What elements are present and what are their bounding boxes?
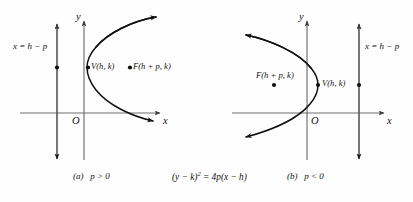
panel-b-graph (232, 21, 384, 160)
panel-b-origin-label: O (311, 116, 319, 127)
panel-b-parabola-curve-upper-arrow (246, 35, 311, 68)
panel-a-focus-point (128, 65, 132, 69)
panel-a-x-axis-label: x (163, 116, 168, 127)
panel-b-directrix-label: x = h − p (365, 42, 399, 51)
panel-b-vertex-point (316, 83, 320, 87)
panel-b-focus-point (272, 83, 276, 87)
panel-a-origin-label: O (72, 116, 80, 127)
panel-a-parabola-curve-upper-arrow (96, 17, 156, 47)
panel-a-graph (20, 17, 160, 160)
panel-b-x-axis-label: x (387, 116, 392, 127)
panel-a-caption: (a) p > 0 (73, 172, 110, 181)
panel-a-caption-condition: p > 0 (90, 171, 110, 181)
panel-b-caption-condition: p < 0 (304, 171, 324, 181)
panel-a-vertex-label: V(h, k) (91, 62, 114, 71)
panel-a-caption-index: (a) (73, 171, 84, 181)
panel-a-focus-label: F(h + p, k) (133, 62, 171, 71)
panel-b-focus-label: F(h + p, k) (256, 71, 294, 80)
panel-a-vertex-point (86, 65, 90, 69)
parabola-equation: (y − k)2 = 4p(x − h) (172, 171, 247, 182)
panel-a-directrix-label: x = h − p (13, 42, 47, 51)
equation-base: (y − k) (172, 172, 197, 182)
panel-b-caption: (b) p < 0 (287, 172, 324, 181)
panel-b-caption-index: (b) (287, 171, 298, 181)
panel-b-directrix-point (357, 83, 361, 87)
panel-b-y-axis-label: y (299, 12, 304, 23)
parabola-figure: y x O x = h − p V(h, k) F(h + p, k) (a) … (0, 0, 413, 202)
equation-tail: = 4p(x − h) (201, 172, 247, 182)
panel-b-vertex-label: V(h, k) (322, 79, 345, 88)
panel-a-y-axis-label: y (76, 12, 81, 23)
panel-a-directrix-point (55, 65, 59, 69)
